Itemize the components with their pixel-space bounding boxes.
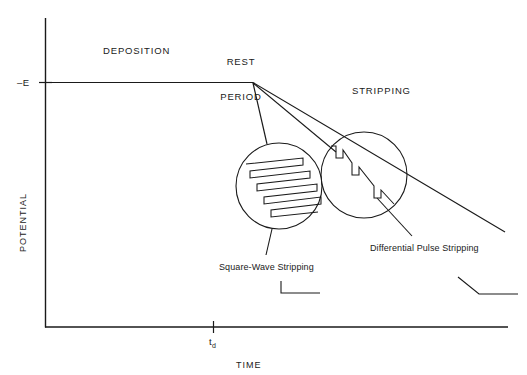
y-axis-label: POTENTIAL [18, 193, 28, 252]
differential-pulse-inset-waveform [331, 146, 394, 204]
label-deposition: DEPOSITION [103, 45, 170, 56]
leader-line-square-wave-caption [266, 229, 272, 255]
label-rest-period-line2: PERIOD [210, 91, 272, 103]
label-stripping: STRIPPING [352, 85, 411, 96]
caption-square-wave-stripping: Square-Wave Stripping [219, 262, 314, 272]
x-axis-tick-label-td: td [209, 336, 216, 349]
x-axis-label: TIME [236, 360, 262, 370]
label-rest-period: REST PERIOD [210, 33, 272, 125]
y-axis-tick-label: –E [17, 77, 29, 88]
leader-line-differential-pulse-caption [377, 198, 412, 236]
label-rest-period-line1: REST [210, 56, 272, 68]
figure-container: DEPOSITION REST PERIOD STRIPPING –E POTE… [0, 0, 527, 375]
square-wave-inset-waveform [246, 158, 321, 217]
caption-differential-pulse-stripping: Differential Pulse Stripping [370, 243, 479, 253]
differential-pulse-callout-circle [321, 132, 407, 218]
elbow-mark-differential-pulse [458, 277, 518, 294]
waveform-stripping-ramp-path [253, 83, 505, 233]
elbow-mark-square-wave [281, 281, 320, 293]
x-axis-tick-label-td-subscript: d [212, 342, 216, 349]
